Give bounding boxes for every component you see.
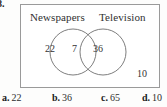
answer-choice-a[interactable]: a.22 <box>2 92 22 103</box>
answer-choice-c-tag: c. <box>101 92 108 103</box>
answer-choice-c[interactable]: c.65 <box>101 92 120 103</box>
venn-circle-television <box>80 29 126 75</box>
answer-choice-a-tag: a. <box>2 92 10 103</box>
venn-value-television-only: 36 <box>93 44 103 54</box>
answer-choice-d-value: 10 <box>152 92 162 103</box>
venn-value-intersection: 7 <box>72 44 77 54</box>
answer-choice-a-value: 22 <box>12 92 22 103</box>
venn-value-outside: 10 <box>137 69 147 79</box>
answer-choice-d[interactable]: d.10 <box>142 92 162 103</box>
question-number: 8. <box>0 0 5 9</box>
answer-choices: a.22 b.36 c.65 d.10 <box>0 92 167 107</box>
worksheet-page: 8. Newspapers Television 22 7 36 10 a.22… <box>0 0 167 107</box>
answer-choice-b-value: 36 <box>62 92 72 103</box>
answer-choice-d-tag: d. <box>142 92 150 103</box>
universal-set-rectangle: Newspapers Television 22 7 36 10 <box>20 4 160 88</box>
venn-value-newspapers-only: 22 <box>45 44 55 54</box>
answer-choice-b[interactable]: b.36 <box>52 92 72 103</box>
answer-choice-c-value: 65 <box>110 92 120 103</box>
answer-choice-b-tag: b. <box>52 92 60 103</box>
